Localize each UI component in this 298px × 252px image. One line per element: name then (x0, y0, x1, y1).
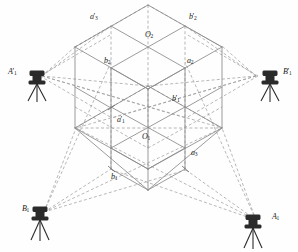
sightline-A1p-2 (42, 26, 111, 76)
instrument-B1[interactable] (31, 207, 49, 241)
sightline-A1p-5 (42, 76, 186, 118)
tripod-legs (244, 228, 262, 249)
bottom-right-quad (148, 169, 185, 190)
tripod-legs (31, 220, 49, 241)
sightline-A1-3 (186, 170, 256, 220)
label-b2-prime: b′2 (189, 13, 197, 21)
label-a3-prime: a′3 (90, 13, 98, 21)
label-b2: b2 (104, 57, 110, 65)
label-instrument-B1-prime: B′1 (283, 68, 292, 76)
label-instrument-B1: B1 (22, 205, 29, 213)
diagram-root: a′3 b′2 O2 b2 a2 b′1 a′1 O1 a3 b1 A′1 B′… (0, 0, 298, 252)
sightline-B1p-1 (222, 46, 256, 76)
label-a2: a2 (187, 57, 193, 65)
instrument-base (245, 225, 261, 228)
label-O1: O1 (142, 133, 150, 141)
label-b1-prime: b′1 (172, 95, 180, 103)
label-b1: b1 (111, 173, 117, 181)
instrument-base (32, 217, 48, 220)
sightline-B1p-5 (112, 76, 256, 118)
front-left-lower (111, 148, 148, 169)
ground-plane-left-down (40, 76, 112, 118)
front-right-lower (148, 148, 185, 169)
instrument-base (29, 81, 45, 84)
right-face-divider (185, 87, 222, 108)
front-right-mid (148, 68, 185, 89)
instrument-A1-prime[interactable] (28, 71, 46, 102)
node-mark-a3 (182, 166, 189, 172)
sightline-A1p-1 (42, 46, 76, 76)
instrument-base (262, 81, 278, 84)
sightline-B1p-2 (185, 26, 256, 76)
sightline-B1-2 (44, 128, 76, 212)
sight-lines-group (42, 26, 256, 220)
instrument-A1[interactable] (244, 215, 262, 249)
sightline-B1-4 (44, 128, 222, 212)
sightline-A1-1 (185, 62, 256, 220)
sightline-B1-3 (44, 169, 111, 212)
front-left-mid (111, 68, 148, 89)
instrument-B1-prime[interactable] (261, 71, 279, 102)
label-instrument-A1-prime: A′1 (8, 68, 17, 76)
label-a3: a3 (191, 149, 197, 157)
sightline-A1-2 (222, 128, 256, 220)
node-mark-a1p (108, 105, 115, 110)
tripod-legs (261, 84, 279, 102)
tripod-legs (28, 84, 46, 102)
label-O2: O2 (145, 31, 153, 39)
label-a1-prime: a′1 (117, 116, 125, 124)
hidden-floor-diag-4 (75, 107, 148, 148)
label-instrument-A1: A1 (272, 213, 279, 221)
left-face-divider (75, 87, 111, 108)
